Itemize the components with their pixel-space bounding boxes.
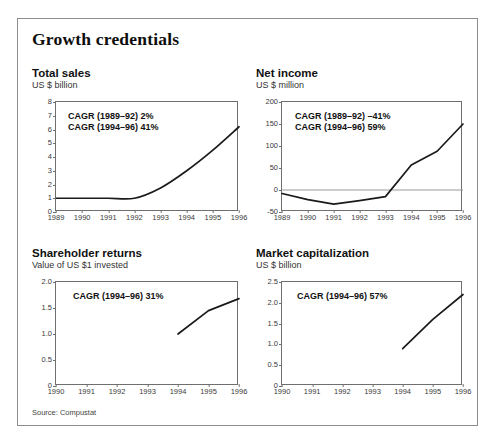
x-axis-tick: 1995 — [429, 210, 446, 222]
y-axis-tick: 1 — [48, 194, 56, 202]
data-line — [403, 294, 463, 348]
panel-subtitle-shareholder-returns: Value of US $1 invested — [32, 260, 244, 271]
plot-wrap-shareholder-returns: 00.51.01.52.0199019911992199319941995199… — [32, 275, 244, 407]
y-axis-tick: 2.0 — [42, 278, 56, 286]
x-axis-tick: 1995 — [424, 384, 441, 396]
figure-frame: Growth credentials Total sales US $ bill… — [17, 18, 478, 426]
y-axis-tick: 1.5 — [42, 304, 56, 312]
x-axis-tick: 1992 — [126, 210, 143, 222]
panel-title-net-income: Net income — [256, 67, 468, 79]
panel-subtitle-total-sales: US $ billion — [32, 80, 244, 91]
x-axis-tick: 1990 — [74, 210, 91, 222]
y-axis-tick: 8 — [48, 98, 56, 106]
y-axis-tick: 5 — [48, 139, 56, 147]
panel-subtitle-market-capitalization: US $ billion — [256, 260, 468, 271]
y-axis-tick: 3 — [48, 167, 56, 175]
x-axis-tick: 1992 — [351, 210, 368, 222]
plot-wrap-net-income: -500501001502001989199019911992199319941… — [256, 95, 468, 227]
annotation-shareholder-returns-0: CAGR (1994–96) 31% — [73, 291, 164, 303]
x-axis-tick: 1995 — [200, 384, 217, 396]
x-axis-tick: 1993 — [152, 210, 169, 222]
x-axis-tick: 1989 — [48, 210, 65, 222]
x-axis-tick: 1992 — [334, 384, 351, 396]
x-axis-tick: 1993 — [377, 210, 394, 222]
y-axis-tick: 1.5 — [268, 320, 282, 328]
x-axis-tick: 1996 — [231, 384, 248, 396]
y-axis-tick: 7 — [48, 112, 56, 120]
x-axis-tick: 1994 — [178, 210, 195, 222]
y-axis-tick: 2 — [48, 181, 56, 189]
plot-wrap-total-sales: 0123456781989199019911992199319941995199… — [32, 95, 244, 227]
x-axis-tick: 1992 — [109, 384, 126, 396]
y-axis-tick: 4 — [48, 153, 56, 161]
x-axis-tick: 1993 — [364, 384, 381, 396]
panel-title-shareholder-returns: Shareholder returns — [32, 247, 244, 259]
x-axis-tick: 1996 — [455, 384, 472, 396]
data-line — [178, 299, 239, 334]
panel-title-total-sales: Total sales — [32, 67, 244, 79]
x-axis-tick: 1996 — [231, 210, 248, 222]
panel-shareholder-returns: Shareholder returns Value of US $1 inves… — [32, 247, 244, 407]
annotation-market-capitalization-0: CAGR (1994–96) 57% — [297, 291, 388, 303]
x-axis-tick: 1991 — [78, 384, 95, 396]
panel-subtitle-net-income: US $ million — [256, 80, 468, 91]
panel-net-income: Net income US $ million -500501001502001… — [256, 67, 468, 227]
x-axis-tick: 1990 — [274, 384, 291, 396]
annotation-net-income-1: CAGR (1994–96) 59% — [295, 122, 386, 134]
annotation-total-sales-1: CAGR (1994–96) 41% — [68, 122, 159, 134]
y-axis-tick: 0.5 — [42, 356, 56, 364]
x-axis-tick: 1994 — [170, 384, 187, 396]
y-axis-tick: 2.0 — [268, 299, 282, 307]
panel-title-market-capitalization: Market capitalization — [256, 247, 468, 259]
x-axis-tick: 1990 — [300, 210, 317, 222]
source-note: Source: Compustat — [32, 408, 96, 417]
y-axis-tick: 1.0 — [268, 340, 282, 348]
y-axis-tick: 6 — [48, 126, 56, 134]
annotation-total-sales-0: CAGR (1989–92) 2% — [68, 111, 154, 123]
y-axis-tick: 1.0 — [42, 330, 56, 338]
panel-market-capitalization: Market capitalization US $ billion 00.51… — [256, 247, 468, 407]
x-axis-tick: 1989 — [274, 210, 291, 222]
plot-wrap-market-capitalization: 00.51.01.52.02.5199019911992199319941995… — [256, 275, 468, 407]
data-line — [56, 127, 239, 199]
panel-total-sales: Total sales US $ billion 012345678198919… — [32, 67, 244, 227]
x-axis-tick: 1993 — [139, 384, 156, 396]
x-axis-tick: 1991 — [304, 384, 321, 396]
y-axis-tick: 50 — [270, 164, 282, 172]
y-axis-tick: 2.5 — [268, 278, 282, 286]
y-axis-tick: 200 — [265, 98, 282, 106]
x-axis-tick: 1995 — [205, 210, 222, 222]
data-line — [282, 124, 463, 204]
y-axis-tick: 150 — [265, 120, 282, 128]
x-axis-tick: 1991 — [100, 210, 117, 222]
y-axis-tick: 0 — [274, 186, 282, 194]
x-axis-tick: 1990 — [48, 384, 65, 396]
y-axis-tick: 0.5 — [268, 361, 282, 369]
x-axis-tick: 1991 — [325, 210, 342, 222]
x-axis-tick: 1996 — [455, 210, 472, 222]
annotation-net-income-0: CAGR (1989–92) –41% — [295, 111, 391, 123]
figure-title: Growth credentials — [32, 29, 179, 50]
x-axis-tick: 1994 — [403, 210, 420, 222]
y-axis-tick: 100 — [265, 142, 282, 150]
x-axis-tick: 1994 — [394, 384, 411, 396]
